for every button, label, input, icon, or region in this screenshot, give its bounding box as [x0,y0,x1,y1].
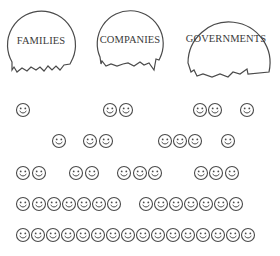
smiley-face-icon [107,229,120,242]
smiley-face-icon [104,104,117,117]
smiley-face-icon [189,135,202,148]
smiley-face-icon [53,135,66,148]
smiley-face-icon [230,198,243,211]
smiley-face-icon [167,229,180,242]
smiley-face-icon [195,167,208,180]
smiley-face-icon [17,167,30,180]
smiley-face-icon [84,135,97,148]
smiley-face-icon [48,198,61,211]
smiley-face-icon [215,198,228,211]
smiley-face-icon [226,167,239,180]
smiley-face-icon [70,167,83,180]
smiley-face-icon [86,167,99,180]
smiley-face-icon [209,104,222,117]
smiley-face-icon [118,167,131,180]
smiley-face-icon [210,167,223,180]
smiley-face-icon [137,229,150,242]
families-label: FAMILIES [17,35,65,46]
smiley-face-icon [108,198,121,211]
smiley-face-icon [17,104,30,117]
smiley-face-icon [200,198,213,211]
smiley-face-icon [155,198,168,211]
smiley-face-icon [197,229,210,242]
smiley-face-icon [100,135,113,148]
smiley-face-icon [170,198,183,211]
smiley-face-icon [152,229,165,242]
smiley-face-icon [63,198,76,211]
smiley-face-icon [33,198,46,211]
smiley-grid [17,104,255,242]
smiley-face-icon [227,229,240,242]
smiley-face-icon [242,229,255,242]
smiley-face-icon [120,104,133,117]
smiley-face-icon [159,135,172,148]
smiley-face-icon [222,135,235,148]
smiley-face-icon [78,198,91,211]
smiley-face-icon [93,198,106,211]
smiley-face-icon [185,198,198,211]
smiley-face-icon [134,167,147,180]
smiley-face-icon [241,104,254,117]
smiley-face-icon [140,198,153,211]
smiley-face-icon [92,229,105,242]
governments-label: GOVERNMENTS [186,33,266,44]
companies-label: COMPANIES [100,34,161,45]
smiley-face-icon [33,167,46,180]
smiley-face-icon [174,135,187,148]
smiley-face-icon [47,229,60,242]
smiley-face-icon [32,229,45,242]
smiley-face-icon [182,229,195,242]
smiley-face-icon [122,229,135,242]
smiley-face-icon [17,229,30,242]
governments-circle [188,22,270,77]
smiley-face-icon [149,167,162,180]
illustration: FAMILIES COMPANIES GOVERNMENTS [0,0,280,256]
smiley-face-icon [62,229,75,242]
smiley-face-icon [194,104,207,117]
smiley-face-icon [77,229,90,242]
smiley-face-icon [17,198,30,211]
smiley-face-icon [212,229,225,242]
